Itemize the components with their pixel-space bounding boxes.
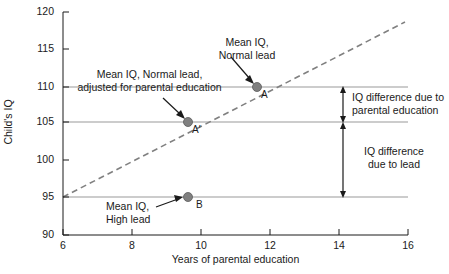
point-label-A-prime: A′ (192, 124, 201, 135)
annotation-line: parental education (352, 104, 449, 117)
data-points (184, 83, 262, 202)
x-axis-title: Years of parental education (63, 253, 408, 265)
annotation-line: Normal lead (192, 49, 302, 62)
annotation-mean-iq-normal-lead-adjusted: Mean IQ, Normal lead, adjusted for paren… (57, 68, 242, 94)
y-tick-115: 115 (22, 42, 54, 54)
annotation-iq-difference-lead: IQ difference due to lead (352, 145, 436, 171)
y-tick-100: 100 (22, 153, 54, 165)
annotation-line: IQ difference due to (352, 91, 449, 104)
annotation-mean-iq-normal-lead: Mean IQ, Normal lead (192, 36, 302, 62)
annotation-line: Mean IQ, Normal lead, (57, 68, 242, 81)
annotation-line: due to lead (352, 158, 436, 171)
leader-arrow-adjusted (163, 98, 185, 119)
x-tick-6: 6 (48, 239, 78, 251)
x-tick-10: 10 (186, 239, 216, 251)
point-label-A: A (261, 89, 268, 100)
x-tick-16: 16 (393, 239, 423, 251)
x-tick-14: 14 (324, 239, 354, 251)
annotation-iq-difference-parental-education: IQ difference due to parental education (352, 91, 449, 117)
y-axis-title: Child's IQ (2, 87, 14, 157)
point-label-B: B (196, 199, 203, 210)
x-tick-8: 8 (117, 239, 147, 251)
annotation-line: Mean IQ, (192, 36, 302, 49)
y-tick-120: 120 (22, 5, 54, 17)
y-axis (63, 12, 69, 235)
y-tick-110: 110 (22, 80, 54, 92)
bracket-lead (340, 122, 346, 198)
annotation-line: High lead (106, 213, 216, 226)
bracket-parental-education (340, 86, 346, 123)
annotation-line: adjusted for parental education (57, 81, 242, 94)
x-tick-12: 12 (255, 239, 285, 251)
annotation-line: IQ difference (352, 145, 436, 158)
y-tick-95: 95 (22, 190, 54, 202)
x-axis (63, 229, 408, 235)
y-tick-105: 105 (22, 115, 54, 127)
